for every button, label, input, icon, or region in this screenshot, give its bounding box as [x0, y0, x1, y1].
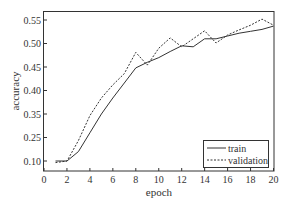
- y-tick-label: 0.40: [24, 85, 42, 96]
- x-axis-label: epoch: [146, 186, 173, 198]
- x-tick-label: 4: [87, 174, 92, 185]
- legend-validation-label: validation: [228, 155, 268, 166]
- y-tick-label: 0.50: [24, 38, 42, 49]
- x-tick-label: 20: [269, 174, 279, 185]
- x-tick-label: 18: [246, 174, 256, 185]
- x-tick-label: 14: [200, 174, 210, 185]
- x-tick-label: 16: [223, 174, 233, 185]
- legend: train validation: [204, 141, 269, 168]
- x-tick-label: 8: [133, 174, 138, 185]
- x-tick-label: 0: [42, 174, 47, 185]
- legend-train-label: train: [228, 143, 246, 154]
- y-tick-label: 0.45: [24, 62, 42, 73]
- x-tick-label: 2: [64, 174, 69, 185]
- x-tick-label: 10: [154, 174, 164, 185]
- line-chart: 0.100.250.350.400.450.500.55 02468101214…: [0, 0, 287, 201]
- y-tick-label: 0.55: [24, 15, 42, 26]
- y-tick-label: 0.10: [24, 156, 42, 167]
- x-tick-label: 6: [110, 174, 115, 185]
- y-tick-label: 0.25: [24, 132, 42, 143]
- y-axis-label: accuracy: [9, 71, 21, 111]
- x-tick-label: 12: [177, 174, 187, 185]
- y-tick-label: 0.35: [24, 109, 42, 120]
